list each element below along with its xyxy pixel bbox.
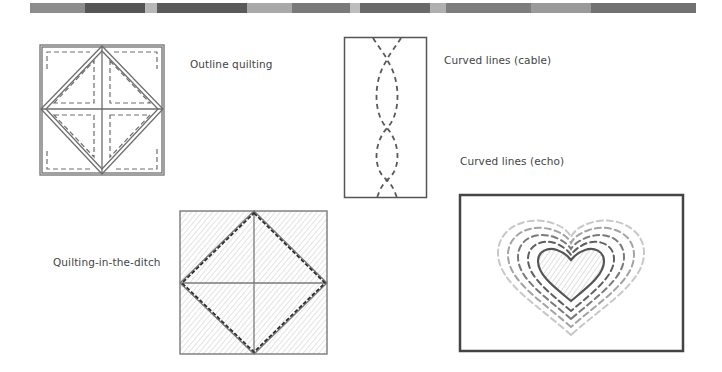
band-segment [531, 3, 591, 13]
echo-quilting-diagram [458, 193, 686, 355]
band-segment [30, 3, 85, 13]
band-segment [145, 3, 157, 13]
ditch-label: Quilting-in-the-ditch [53, 256, 161, 268]
decorative-header-band [30, 3, 696, 13]
band-segment [591, 3, 696, 13]
echo-label: Curved lines (echo) [460, 155, 564, 167]
band-segment [430, 3, 446, 13]
ditch-quilting-diagram [178, 209, 330, 357]
band-segment [85, 3, 145, 13]
cable-quilting-diagram [343, 36, 429, 200]
band-segment [446, 3, 531, 13]
band-segment [292, 3, 350, 13]
band-segment [350, 3, 360, 13]
band-segment [360, 3, 430, 13]
outline-quilting-label: Outline quilting [190, 58, 272, 70]
cable-label: Curved lines (cable) [444, 54, 551, 66]
band-segment [247, 3, 292, 13]
band-segment [157, 3, 247, 13]
outline-quilting-diagram [38, 43, 168, 178]
